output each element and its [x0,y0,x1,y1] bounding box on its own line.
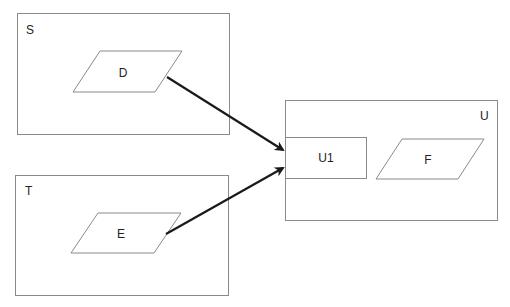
node-u1-label: U1 [318,151,334,165]
container-t-label: T [25,184,33,198]
node-u1[interactable]: U1 [286,138,367,179]
container-s-label: S [26,23,34,37]
diagram-canvas: S D T E U U1 F [0,0,510,307]
node-e-label: E [117,227,125,241]
node-d-label: D [119,66,128,80]
node-f-label: F [424,153,431,167]
container-u-label: U [480,109,489,123]
